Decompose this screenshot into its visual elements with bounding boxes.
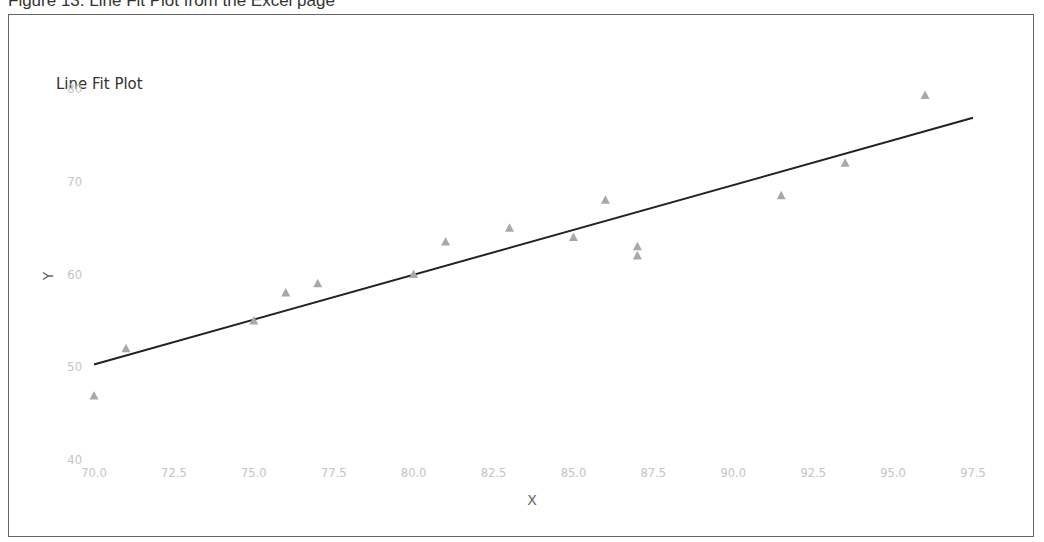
triangle-marker [90, 391, 99, 400]
x-tick-label: 85.0 [561, 466, 587, 480]
data-points [90, 90, 930, 399]
x-tick-label: 95.0 [880, 466, 906, 480]
y-tick-label: 70 [67, 175, 82, 189]
x-tick-label: 80.0 [401, 466, 427, 480]
x-tick-label: 87.5 [641, 466, 667, 480]
x-tick-label: 92.5 [800, 466, 826, 480]
triangle-marker [281, 288, 290, 297]
triangle-marker [633, 251, 642, 260]
triangle-marker [505, 223, 514, 232]
x-tick-label: 70.0 [81, 466, 107, 480]
y-tick-label: 40 [67, 453, 82, 467]
x-tick-label: 90.0 [720, 466, 746, 480]
triangle-marker [921, 90, 930, 99]
x-tick-label: 77.5 [321, 466, 347, 480]
line-fit-plot: Line Fit Plot 4050607080 70.072.575.077.… [0, 0, 1044, 542]
triangle-marker [601, 195, 610, 204]
triangle-marker [313, 279, 322, 288]
x-tick-label: 75.0 [241, 466, 267, 480]
x-axis-ticks: 70.072.575.077.580.082.585.087.590.092.5… [81, 466, 986, 480]
y-axis-ticks: 4050607080 [67, 82, 82, 467]
x-tick-label: 97.5 [960, 466, 986, 480]
y-tick-label: 50 [67, 360, 82, 374]
x-tick-label: 72.5 [161, 466, 187, 480]
triangle-marker [121, 344, 130, 353]
triangle-marker [569, 232, 578, 241]
regression-line [94, 118, 973, 365]
x-tick-label: 82.5 [481, 466, 507, 480]
x-axis-label: X [527, 492, 537, 508]
triangle-marker [777, 191, 786, 200]
y-axis-label: Y [40, 271, 56, 281]
triangle-marker [633, 242, 642, 251]
y-tick-label: 60 [67, 268, 82, 282]
fit-line [94, 118, 973, 365]
y-tick-label: 80 [67, 82, 82, 96]
triangle-marker [441, 237, 450, 246]
triangle-marker [841, 158, 850, 167]
